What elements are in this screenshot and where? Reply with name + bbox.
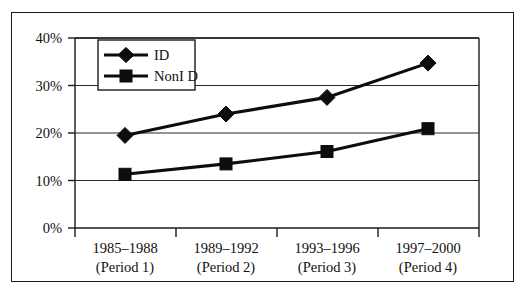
legend: ID NonI D	[98, 40, 198, 90]
series-id-marker-period-2	[218, 106, 234, 122]
series-nonid	[119, 123, 434, 181]
series-nonid-marker-period-3	[321, 146, 333, 158]
x-tick-sublabel-period-1: (Period 1)	[96, 259, 155, 276]
x-tick-sublabel-period-3: (Period 3)	[298, 259, 357, 276]
y-tick-label-0: 0%	[43, 220, 62, 236]
x-tick-label-period-2: 1989–1992	[193, 240, 258, 256]
x-axis	[75, 228, 479, 237]
x-tick-labels: 1985–1988 (Period 1) 1989–1992 (Period 2…	[92, 240, 460, 276]
series-nonid-line	[125, 129, 428, 175]
x-tick-label-period-3: 1993–1996	[294, 240, 359, 256]
y-tick-label-40: 40%	[35, 30, 62, 46]
y-tick-label-10: 10%	[35, 173, 62, 189]
series-id-marker-period-3	[319, 89, 335, 105]
series-nonid-marker-period-2	[220, 158, 232, 170]
series-nonid-marker-period-1	[119, 168, 131, 180]
y-tick-label-20: 20%	[35, 125, 62, 141]
x-tick-label-period-1: 1985–1988	[92, 240, 157, 256]
y-axis: 40% 30% 20% 10% 0%	[35, 30, 75, 236]
y-tick-label-30: 30%	[35, 78, 62, 94]
x-tick-sublabel-period-4: (Period 4)	[399, 259, 458, 276]
line-chart: 40% 30% 20% 10% 0% 1985–1988 (Period 1) …	[0, 0, 527, 294]
x-tick-label-period-4: 1997–2000	[395, 240, 460, 256]
series-id-marker-period-1	[117, 127, 133, 143]
legend-label-nonid: NonI D	[154, 68, 198, 84]
series-nonid-marker-period-4	[422, 123, 434, 135]
x-tick-sublabel-period-2: (Period 2)	[197, 259, 256, 276]
series-id-marker-period-4	[420, 55, 436, 71]
legend-label-id: ID	[154, 47, 169, 63]
legend-marker-square-icon	[120, 70, 132, 82]
